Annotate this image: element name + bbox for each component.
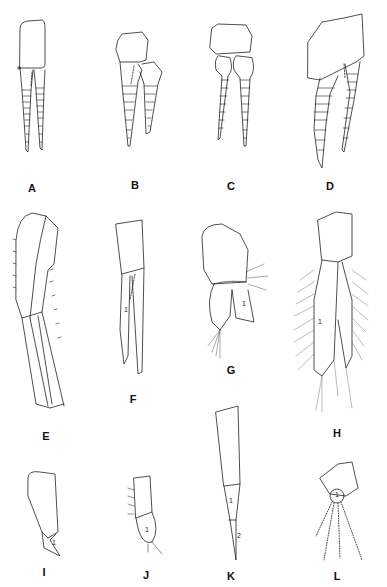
panel-f-drawing (116, 220, 144, 374)
panel-label-a: A (28, 182, 36, 194)
panel-g-drawing (202, 224, 268, 358)
panel-a-drawing (18, 20, 45, 152)
segment-label-l1: 1 (335, 491, 339, 498)
panel-label-b: B (131, 179, 139, 191)
segment-label-f1: 1 (124, 306, 128, 313)
segment-label-k1: 1 (229, 497, 233, 504)
panel-j-drawing (128, 476, 162, 554)
panel-label-i: I (42, 566, 45, 578)
panel-e-drawing (13, 213, 64, 408)
panel-label-f: F (130, 393, 137, 405)
panel-l-drawing (316, 462, 362, 560)
panel-h-drawing (294, 212, 368, 412)
panel-b-drawing (116, 32, 162, 146)
panel-label-h: H (333, 427, 341, 439)
panel-c-drawing (210, 24, 254, 146)
panel-label-c: C (227, 180, 235, 192)
segment-label-i1: 1 (52, 539, 56, 546)
figure-drawings (0, 0, 387, 587)
segment-label-j1: 1 (145, 526, 149, 533)
panel-label-d: D (326, 180, 334, 192)
segment-label-k2: 2 (237, 532, 241, 539)
panel-label-j: J (143, 569, 149, 581)
panel-label-l: L (334, 570, 341, 582)
panel-d-drawing (308, 14, 364, 168)
segment-label-g1: 1 (242, 300, 246, 307)
panel-label-k: K (227, 570, 235, 582)
panel-label-g: G (227, 364, 236, 376)
segment-label-h1: 1 (318, 318, 322, 325)
panel-label-e: E (42, 430, 49, 442)
